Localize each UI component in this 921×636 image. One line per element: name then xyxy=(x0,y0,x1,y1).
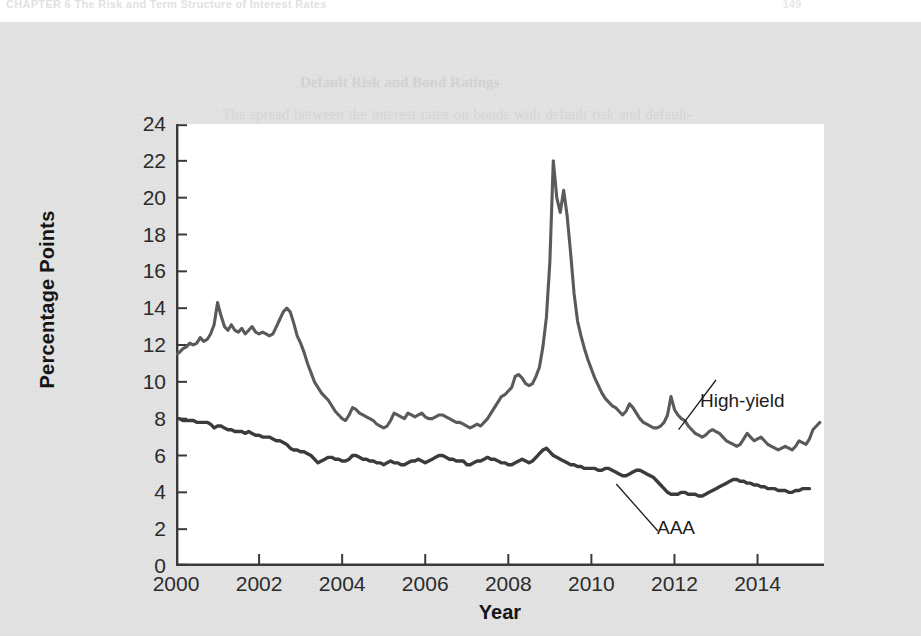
chart-tick-marks xyxy=(176,125,758,565)
ghost-section-heading: Default Risk and Bond Ratings xyxy=(300,74,499,91)
y-tick-label: 2 xyxy=(154,518,166,539)
y-tick-label: 10 xyxy=(143,371,166,392)
line-chart-svg xyxy=(176,124,824,566)
x-tick-label: 2010 xyxy=(568,572,615,596)
x-tick-label: 2006 xyxy=(402,572,449,596)
figure-container: CHAPTER 6 The Risk and Term Structure of… xyxy=(0,0,921,636)
chart-plot-area xyxy=(176,124,824,566)
y-tick-label: 12 xyxy=(143,334,166,355)
y-tick-label: 20 xyxy=(143,187,166,208)
y-tick-label: 16 xyxy=(143,260,166,281)
series-label-aaa: AAA xyxy=(657,517,695,539)
y-axis-title: Percentage Points xyxy=(36,175,59,425)
x-axis-title: Year xyxy=(176,601,824,624)
y-tick-label: 22 xyxy=(143,150,166,171)
y-tick-label: 24 xyxy=(143,113,166,134)
x-tick-label: 2004 xyxy=(319,572,366,596)
x-tick-label: 2000 xyxy=(153,572,200,596)
y-tick-label: 4 xyxy=(154,481,166,502)
x-tick-label: 2012 xyxy=(651,572,698,596)
y-tick-label: 8 xyxy=(154,408,166,429)
x-tick-label: 2014 xyxy=(734,572,781,596)
y-tick-label: 6 xyxy=(154,445,166,466)
y-axis-tick-labels: 024681012141618202224 xyxy=(112,124,166,566)
leader-line-aaa xyxy=(616,484,658,531)
ghost-page-heading-left: CHAPTER 6 The Risk and Term Structure of… xyxy=(6,0,327,10)
chart-series-lines xyxy=(176,161,820,496)
x-tick-label: 2002 xyxy=(236,572,283,596)
x-axis-tick-labels: 20002002200420062008201020122014 xyxy=(0,572,921,602)
chart-axes xyxy=(177,124,824,565)
ghost-page-number: 149 xyxy=(783,0,801,10)
y-tick-label: 18 xyxy=(143,224,166,245)
x-tick-label: 2008 xyxy=(485,572,532,596)
y-tick-label: 14 xyxy=(143,297,166,318)
page-top-white-strip: CHAPTER 6 The Risk and Term Structure of… xyxy=(0,0,921,22)
series-label-high-yield: High-yield xyxy=(700,390,784,412)
